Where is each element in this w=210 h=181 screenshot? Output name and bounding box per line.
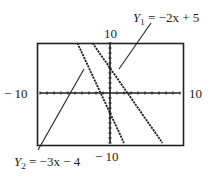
y2-equation-label: Y2 = −3x − 4 [14, 154, 81, 171]
y1-pointer-line [119, 23, 151, 69]
graph-chart: − 10 10 10 − 10 Y1 = −2x + 5 Y2 = −3x − … [0, 0, 210, 181]
x-min-label: − 10 [4, 86, 28, 101]
annotation-pointers [38, 23, 151, 150]
axes [40, 43, 180, 143]
x-max-label: 10 [189, 86, 202, 101]
y-max-label: 10 [104, 26, 117, 41]
y1-rhs: = −2x + 5 [145, 10, 200, 25]
y-min-label: − 10 [95, 149, 119, 164]
y2-rhs: = −3x − 4 [26, 154, 81, 169]
y1-equation-label: Y1 = −2x + 5 [133, 10, 199, 27]
y2-pointer-line [38, 69, 84, 150]
